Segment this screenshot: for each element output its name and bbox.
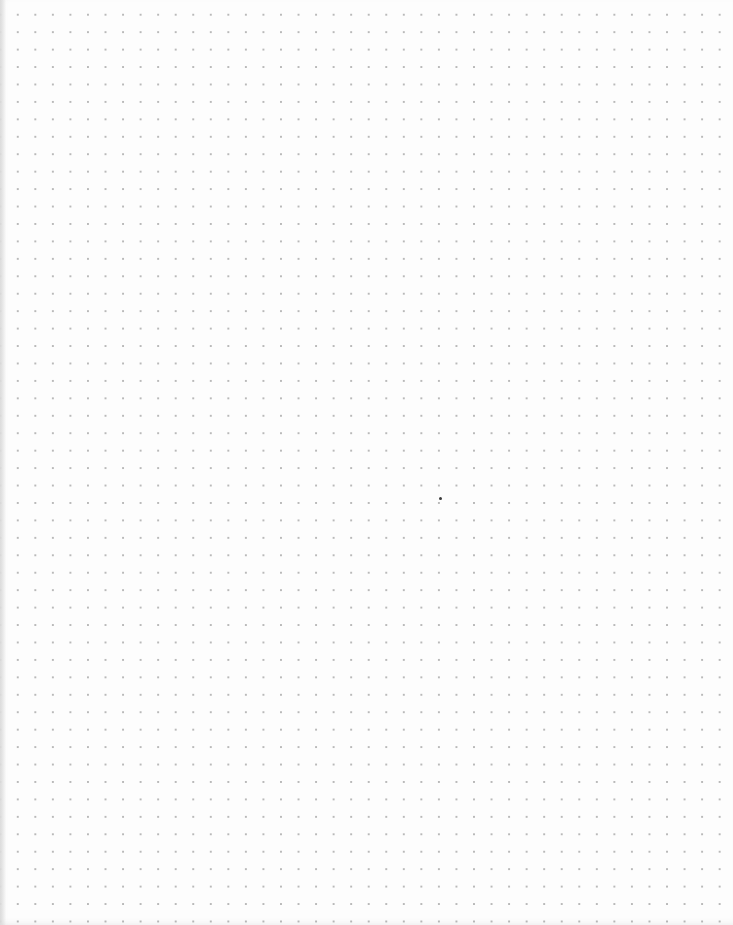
page-edge-shadow xyxy=(0,0,6,925)
dot-grid-page xyxy=(0,0,733,925)
ink-dot-mark xyxy=(439,497,442,500)
